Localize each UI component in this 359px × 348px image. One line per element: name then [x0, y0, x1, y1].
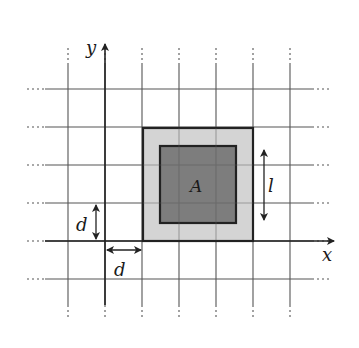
grid-diagram: y x A l d d: [0, 0, 359, 348]
x-axis-label: x: [322, 244, 332, 265]
side-length-label: l: [268, 175, 274, 196]
horizontal-spacing-label: d: [114, 259, 126, 280]
diagram-canvas: y x A l d d: [0, 0, 359, 348]
y-axis-label: y: [85, 37, 97, 58]
vertical-spacing-label: d: [76, 214, 88, 235]
area-label: A: [188, 176, 202, 196]
